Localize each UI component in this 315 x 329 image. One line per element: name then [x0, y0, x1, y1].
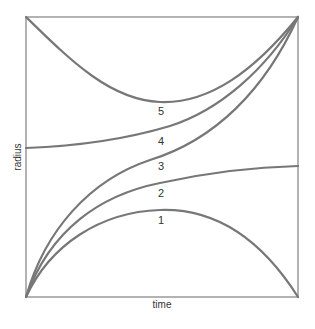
chart: 5 4 3 2 1 time radius: [0, 0, 315, 329]
curve-4: [26, 17, 298, 148]
curve-5-label: 5: [158, 105, 164, 117]
curve-5: [26, 17, 298, 102]
curve-1-label: 1: [158, 214, 164, 226]
curve-3-label: 3: [158, 160, 164, 172]
curve-2-label: 2: [158, 187, 164, 199]
x-axis-label: time: [153, 299, 172, 310]
y-axis-label: radius: [12, 143, 23, 170]
curve-2: [26, 166, 298, 297]
curve-4-label: 4: [158, 135, 164, 147]
